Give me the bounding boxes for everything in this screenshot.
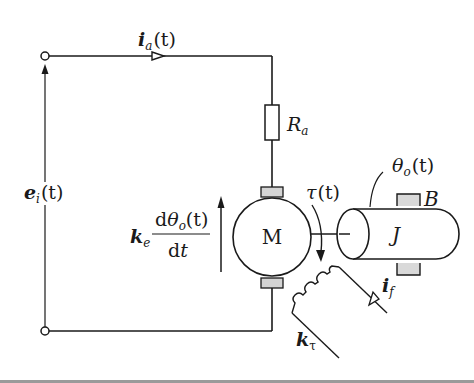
svg-text:dθo(t): dθo(t)	[155, 208, 208, 233]
top-brush	[261, 187, 283, 197]
input-voltage-label: ei(t)	[24, 181, 63, 206]
torque-constant-label: kτ	[296, 328, 316, 353]
svg-text:ke: ke	[130, 225, 150, 250]
output-angle-label: θo(t)	[392, 154, 434, 179]
circuit-wires	[49, 56, 272, 331]
back-emf-arrow-icon	[218, 196, 225, 272]
motor-label: M	[262, 225, 282, 249]
bottom-terminal	[41, 327, 49, 335]
svg-text:dt: dt	[168, 239, 188, 261]
bottom-brush	[261, 278, 283, 288]
bottom-bearing	[397, 263, 420, 275]
armature-current-arrow-icon	[152, 52, 164, 60]
field-current-label: if	[382, 274, 396, 299]
friction-label: B	[423, 187, 439, 211]
armature-resistance-label: Ra	[286, 113, 308, 138]
back-emf-label: ke dθo(t) dt	[130, 208, 210, 261]
armature-current-label: ia(t)	[138, 28, 176, 53]
torque-label: τ(t)	[306, 181, 340, 203]
armature-resistor	[265, 105, 279, 140]
top-terminal	[41, 52, 49, 60]
dc-motor-diagram: ia(t) ei(t) Ra M ke dθo(t) dt τ(	[0, 0, 474, 383]
top-bearing	[397, 194, 420, 206]
output-angle-leader	[370, 172, 383, 207]
